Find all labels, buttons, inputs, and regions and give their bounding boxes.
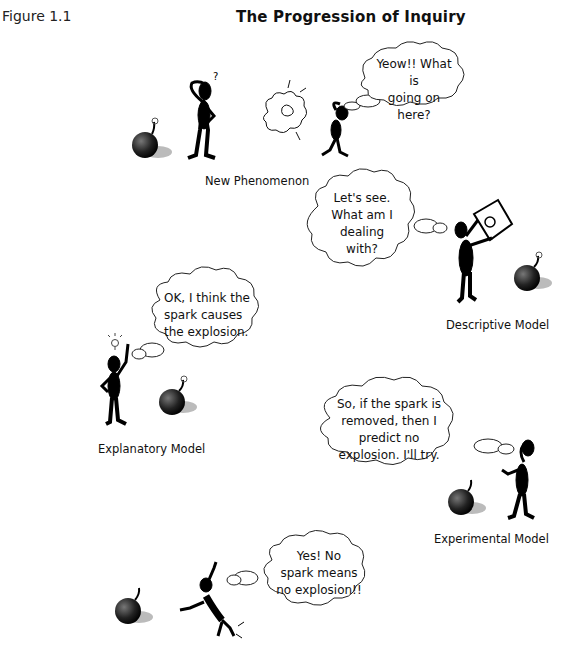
- svg-text:?: ?: [213, 71, 218, 82]
- lightbulb-icon: [108, 333, 122, 350]
- thought-text-descriptive-model: Let's see. What am I dealing with?: [316, 190, 408, 258]
- stage-caption-new-phenomenon: New Phenomenon: [205, 174, 309, 188]
- stick-figure-icon: [322, 103, 348, 156]
- stage-caption-explanatory-model: Explanatory Model: [98, 442, 205, 456]
- stick-figure-icon: [102, 344, 128, 424]
- bomb-icon: [448, 480, 486, 515]
- thought-text-explanatory-model: OK, I think the spark causes the explosi…: [164, 290, 256, 341]
- bomb-icon: [514, 252, 552, 291]
- sign-icon: [474, 200, 512, 240]
- stick-figure-icon: [180, 562, 244, 638]
- thought-text-conclusion: Yes! No spark means no explosion!!: [272, 548, 366, 599]
- bomb-icon: [159, 376, 197, 415]
- bomb-icon: [132, 118, 172, 158]
- explosion-cloud-icon: [263, 80, 306, 140]
- bomb-icon: [115, 588, 153, 624]
- thought-text-experimental-model: So, if the spark is removed, then I pred…: [326, 396, 452, 464]
- stage-caption-descriptive-model: Descriptive Model: [446, 318, 549, 332]
- stick-figure-icon: ?: [188, 71, 218, 158]
- thought-text-new-phenomenon: Yeow!! What is going on here?: [372, 56, 456, 124]
- stage-caption-experimental-model: Experimental Model: [434, 532, 549, 546]
